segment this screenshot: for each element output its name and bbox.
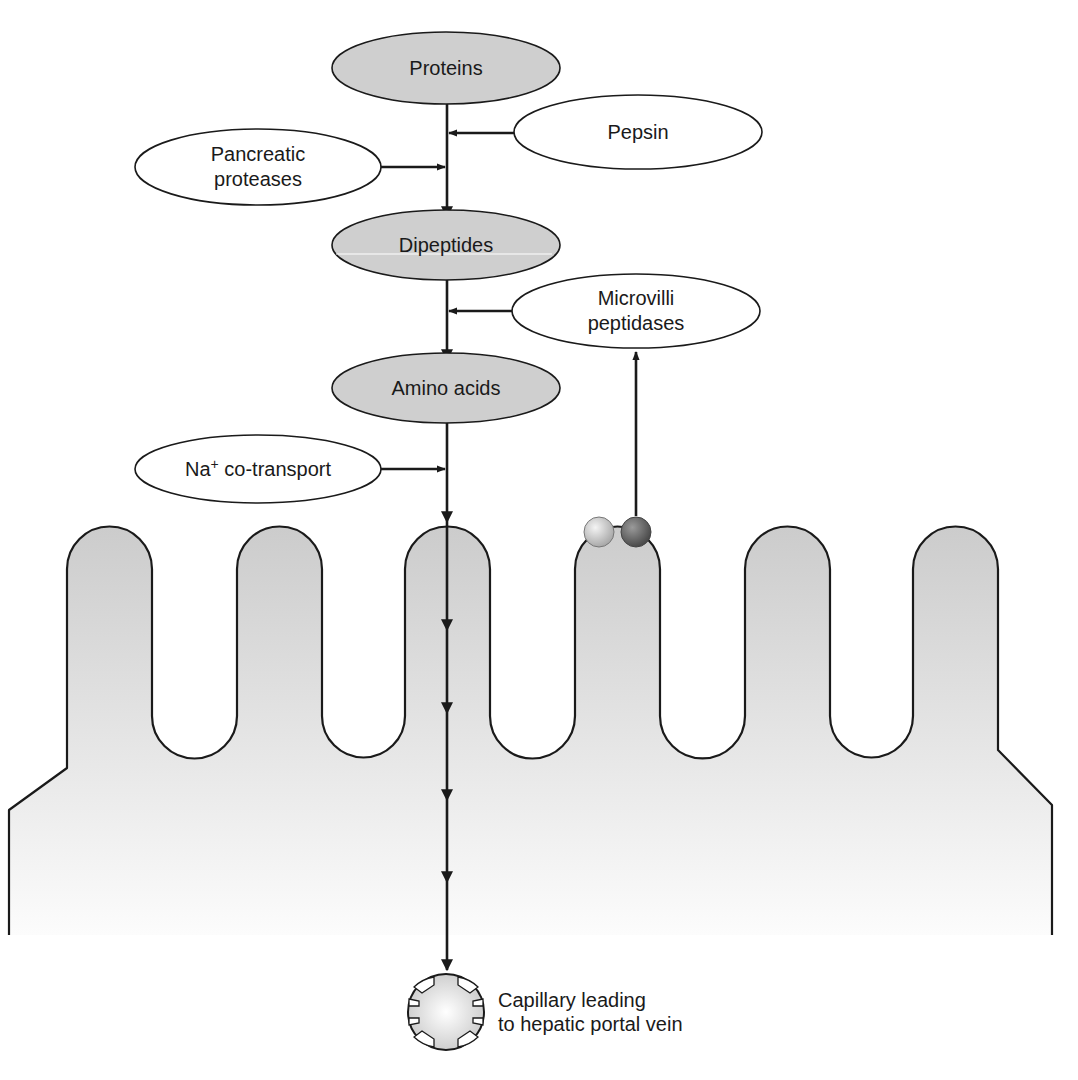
dipeptides-label: Dipeptides xyxy=(399,233,494,258)
substrate-nodes xyxy=(332,32,560,423)
bead-dark xyxy=(621,517,651,547)
microvilli-peptidases-label: Microvilli peptidases xyxy=(588,286,685,336)
na-cotransport-label: Na+ co-transport xyxy=(185,457,331,482)
cell-membrane-outline xyxy=(9,527,1052,936)
amino-acids-label: Amino acids xyxy=(392,376,501,401)
capillary-icon xyxy=(408,974,484,1050)
pepsin-label: Pepsin xyxy=(607,120,668,145)
bead-light xyxy=(584,517,614,547)
epithelial-cell xyxy=(9,527,1052,936)
capillary-label: Capillary leading to hepatic portal vein xyxy=(498,988,683,1036)
proteins-label: Proteins xyxy=(409,56,482,81)
protein-digestion-diagram xyxy=(0,0,1078,1080)
pancreatic-proteases-label: Pancreatic proteases xyxy=(211,142,306,192)
